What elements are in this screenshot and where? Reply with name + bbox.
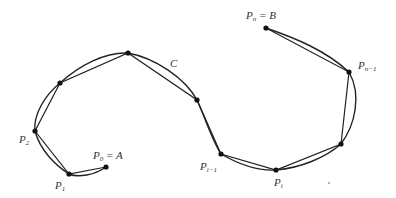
point-p4 <box>125 50 130 55</box>
label-pnm1: Pn−1 <box>357 59 376 73</box>
label-p2: P2 <box>18 133 30 147</box>
point-p0 <box>103 164 108 169</box>
point-pn <box>263 25 268 30</box>
label-pi: Pi <box>273 176 283 190</box>
point-pi <box>273 167 278 172</box>
point-p3 <box>57 80 62 85</box>
point-pim1 <box>218 151 223 156</box>
point-p1 <box>66 171 71 176</box>
label-p0: P0 = A <box>92 149 123 163</box>
polygonal-approximation-diagram: C P0 = A P1 P2 Pi−1 Pi Pn−1 Pn = B <box>0 0 396 198</box>
point-p5 <box>194 97 199 102</box>
stray-dot <box>328 182 330 184</box>
point-p2 <box>32 128 37 133</box>
curve-label: C <box>170 57 178 69</box>
label-pim1: Pi−1 <box>199 160 217 174</box>
label-pn: Pn = B <box>245 9 276 23</box>
label-p1: P1 <box>54 179 65 193</box>
polygonal-path <box>35 28 349 174</box>
point-pnm1 <box>346 69 351 74</box>
point-pi1 <box>338 141 343 146</box>
